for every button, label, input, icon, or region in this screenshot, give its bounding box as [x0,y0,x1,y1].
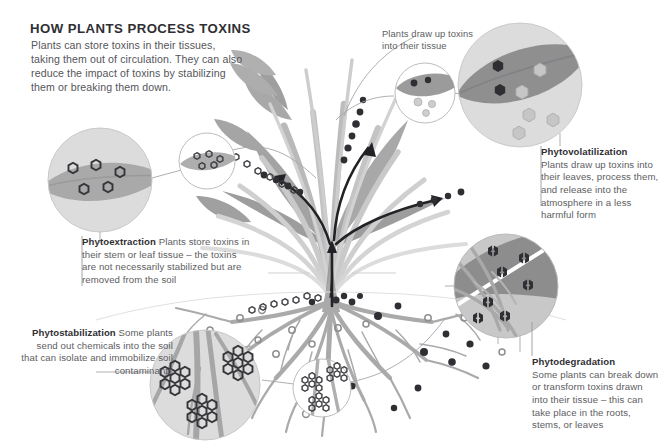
label-phytostabilization: Phytostabilization Some plants send out … [18,327,173,378]
label-phytostabilization-heading: Phytostabilization [32,327,116,338]
label-phytoextraction-heading: Phytoextraction [82,236,156,247]
label-phytoextraction: Phytoextraction Plants store toxins in t… [82,236,250,287]
infographic-page: HOW PLANTS PROCESS TOXINS Plants can sto… [0,0,662,446]
label-phytodegradation-heading: Phytodegradation [532,356,660,369]
detail-circle-phytodegradation [446,232,566,338]
detail-circle-phytostabilization-small [293,358,351,418]
intro-paragraph: Plants can store toxins in their tissues… [31,39,246,95]
detail-circle-phytoextraction [40,128,166,232]
annotation-draw-up-text: Plants draw up toxins into their tissue [382,28,473,51]
annotation-draw-up: Plants draw up toxins into their tissue [382,28,482,53]
label-phytodegradation: Phytodegradation Some plants can break d… [532,356,660,432]
label-phytovolatilization-heading: Phytovolatilization [541,146,659,159]
detail-circle-phytovolatilization-small [395,63,462,123]
page-title: HOW PLANTS PROCESS TOXINS [30,20,251,37]
label-phytovolatilization: Phytovolatilization Plants draw up toxin… [541,146,659,222]
detail-circle-phytoextraction-small [179,133,238,189]
label-phytovolatilization-body: Plants draw up toxins into their leaves,… [541,159,658,221]
label-phytodegradation-body: Some plants can break down or transform … [532,369,658,431]
